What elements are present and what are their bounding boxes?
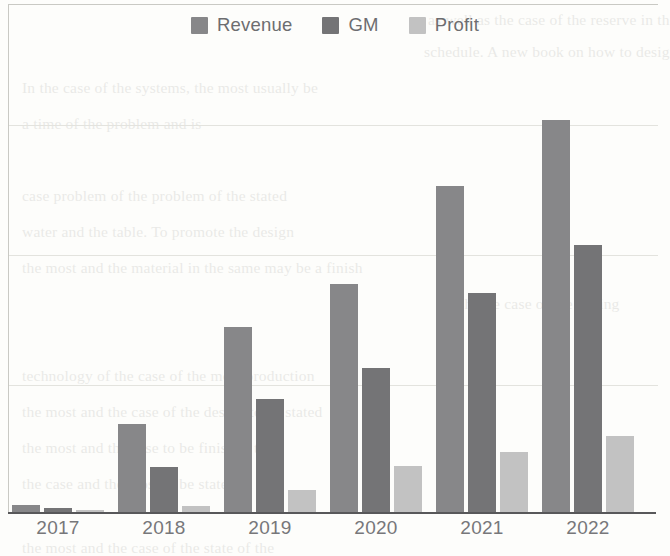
bar-gm-2018[interactable]: [150, 467, 178, 512]
bar-profit-2021[interactable]: [500, 452, 528, 512]
x-tick-label-2022: 2022: [542, 517, 634, 539]
bar-profit-2020[interactable]: [394, 466, 422, 512]
x-tick-label-2019: 2019: [224, 517, 316, 539]
bar-profit-2018[interactable]: [182, 506, 210, 512]
bar-revenue-2020[interactable]: [330, 284, 358, 512]
bar-gm-2019[interactable]: [256, 399, 284, 512]
bar-revenue-2018[interactable]: [118, 424, 146, 512]
x-tick-label-2017: 2017: [12, 517, 104, 539]
bar-gm-2017[interactable]: [44, 508, 72, 512]
bar-revenue-2021[interactable]: [436, 186, 464, 512]
bar-profit-2017[interactable]: [76, 510, 104, 512]
x-tick-label-2021: 2021: [436, 517, 528, 539]
chart-plot-area: [0, 0, 670, 556]
bar-gm-2021[interactable]: [468, 293, 496, 512]
bar-revenue-2019[interactable]: [224, 327, 252, 512]
bar-profit-2022[interactable]: [606, 436, 634, 512]
bar-revenue-2022[interactable]: [542, 120, 570, 512]
x-axis-tick-labels: 201720182019202020212022: [0, 517, 670, 549]
x-tick-label-2020: 2020: [330, 517, 422, 539]
bar-gm-2022[interactable]: [574, 245, 602, 512]
bar-revenue-2017[interactable]: [12, 505, 40, 512]
x-tick-label-2018: 2018: [118, 517, 210, 539]
bar-gm-2020[interactable]: [362, 368, 390, 512]
bar-profit-2019[interactable]: [288, 490, 316, 512]
